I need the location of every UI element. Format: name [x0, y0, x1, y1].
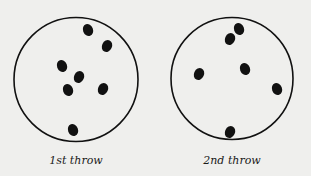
hit-dot: [223, 124, 237, 139]
hit-dot: [238, 61, 252, 76]
panel-label-2nd-throw: 2nd throw: [203, 154, 260, 167]
target-panel-2: [171, 18, 293, 140]
panel-label-1st-throw: 1st throw: [49, 154, 102, 167]
hit-dot: [81, 22, 95, 37]
throw-diagram: [0, 0, 311, 176]
hit-dot: [72, 69, 86, 84]
hit-dot: [223, 31, 237, 46]
hit-dot: [270, 81, 284, 96]
hit-dot: [66, 122, 80, 137]
hit-dot: [96, 81, 110, 96]
hit-dot: [232, 21, 246, 36]
target-panel-1: [14, 18, 138, 142]
hit-dot: [55, 58, 69, 73]
hit-dot: [100, 38, 114, 53]
hit-dot: [192, 66, 206, 81]
hit-dot: [61, 82, 75, 97]
